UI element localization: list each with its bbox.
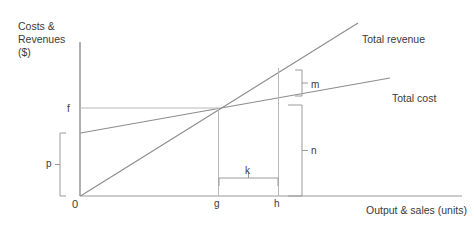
bracket-p — [60, 133, 66, 196]
total-cost-line — [81, 78, 391, 133]
bracket-label-k: k — [245, 165, 250, 177]
y-tick-label-f: f — [67, 103, 70, 115]
bracket-k — [219, 178, 278, 186]
y-axis-label-line-3: ($) — [18, 46, 31, 58]
total-revenue-label: Total revenue — [362, 33, 425, 45]
breakeven-chart-figure: Costs &Revenues($) Output & sales (units… — [0, 0, 474, 234]
bracket-label-m: m — [311, 79, 319, 91]
origin-label: 0 — [72, 198, 78, 210]
bracket-n — [288, 105, 302, 196]
x-tick-label-g: g — [214, 198, 220, 210]
y-axis-label: Costs &Revenues($) — [18, 20, 65, 59]
total-revenue-line — [81, 23, 359, 196]
bracket-m — [295, 70, 302, 96]
x-tick-label-h: h — [274, 198, 280, 210]
y-axis-label-line-2: Revenues — [18, 33, 65, 45]
total-cost-label: Total cost — [392, 92, 436, 104]
y-axis-label-line-1: Costs & — [18, 20, 55, 32]
x-axis-label: Output & sales (units) — [366, 204, 467, 216]
bracket-label-n: n — [311, 145, 317, 157]
bracket-label-p: p — [46, 158, 52, 170]
